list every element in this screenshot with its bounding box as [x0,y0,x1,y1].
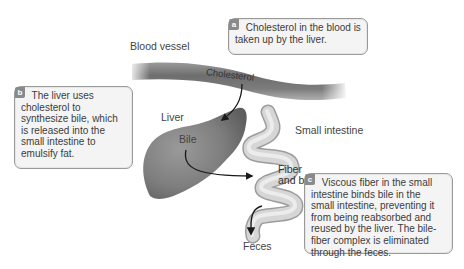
callout-b-text: The liver uses cholesterol to synthesize… [21,90,118,159]
callout-c-badge: c [305,174,315,185]
liver-label: Liver [161,111,184,123]
callout-b: b The liver uses cholesterol to synthesi… [14,86,133,169]
feces-label: Feces [243,240,272,252]
callout-a-text: Cholesterol in the blood is taken up by … [235,22,361,45]
blood-vessel-label: Blood vessel [130,40,190,52]
callout-c: c Viscous fiber in the small intestine b… [304,173,453,254]
small-intestine-label: Small intestine [295,124,363,136]
callout-a-badge: a [229,19,239,30]
bile-label: Bile [179,133,197,145]
callout-b-badge: b [15,87,25,98]
callout-c-text: Viscous fiber in the small intestine bin… [311,177,436,258]
callout-a: a Cholesterol in the blood is taken up b… [228,18,368,55]
liver [143,108,246,199]
